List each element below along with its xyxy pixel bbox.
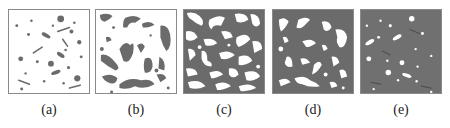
panel-e bbox=[360, 9, 442, 94]
morphology-image-e bbox=[361, 10, 441, 93]
panel-label-b: (b) bbox=[95, 102, 177, 118]
panel-d bbox=[272, 9, 354, 94]
panel-a bbox=[8, 9, 90, 94]
morphology-image-d bbox=[273, 10, 353, 93]
panel-label-d: (d) bbox=[272, 102, 354, 118]
morphology-image-c bbox=[184, 10, 264, 93]
panel-label-e: (e) bbox=[360, 102, 442, 118]
panel-label-a: (a) bbox=[8, 102, 90, 118]
panel-c bbox=[183, 9, 265, 94]
morphology-image-b bbox=[96, 10, 176, 93]
morphology-image-a bbox=[9, 10, 89, 93]
panel-label-c: (c) bbox=[183, 102, 265, 118]
panel-b bbox=[95, 9, 177, 94]
